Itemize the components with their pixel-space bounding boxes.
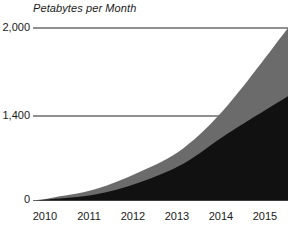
y-axis-tick-2000: 2,000 — [0, 21, 30, 33]
x-axis-tick-2011: 2011 — [69, 210, 109, 222]
y-axis-tick-1400: 1,400 — [0, 109, 30, 121]
y-axis-tick-0: 0 — [0, 193, 30, 205]
x-axis-tick-2015: 2015 — [245, 210, 285, 222]
x-axis-tick-2014: 2014 — [201, 210, 241, 222]
chart-plot-area — [0, 0, 302, 231]
chart-container: Petabytes per Month 2,000 1,400 0 2010 2… — [0, 0, 302, 231]
x-axis-tick-2012: 2012 — [113, 210, 153, 222]
x-axis-tick-2013: 2013 — [157, 210, 197, 222]
x-axis-tick-2010: 2010 — [25, 210, 65, 222]
